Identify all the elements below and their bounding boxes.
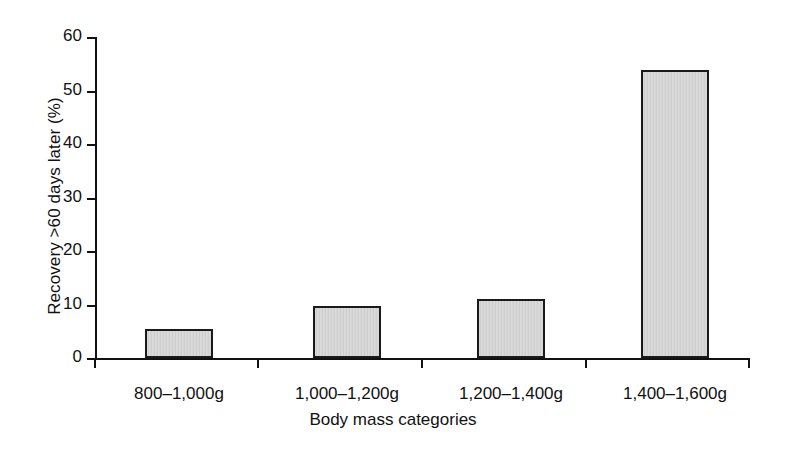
x-axis-title: Body mass categories: [0, 410, 786, 430]
x-tick-label-1: 1,000–1,200g: [295, 384, 399, 404]
y-axis-line: [95, 37, 97, 359]
y-tick-label-10: 10: [63, 294, 82, 314]
bar-chart-figure: Recovery >60 days later (%) 0 10 20 30 4…: [0, 0, 786, 460]
x-tick-label-0: 800–1,000g: [134, 384, 224, 404]
y-tick-label-30: 30: [63, 187, 82, 207]
x-tick-3: [585, 359, 587, 368]
y-axis-title: Recovery >60 days later (%): [45, 46, 65, 366]
bar-1000-1200g: [313, 306, 381, 358]
plot-area: 0 10 20 30 40 50 60: [95, 37, 750, 358]
y-tick-label-60: 60: [63, 26, 82, 46]
bar-1200-1400g: [477, 299, 545, 358]
y-tick-label-0: 0: [73, 347, 82, 367]
x-tick-label-3: 1,400–1,600g: [623, 384, 727, 404]
x-tick-4: [748, 359, 750, 368]
x-tick-0: [94, 359, 96, 368]
bar-1400-1600g: [641, 70, 709, 358]
x-tick-label-2: 1,200–1,400g: [459, 384, 563, 404]
x-tick-1: [257, 359, 259, 368]
y-tick-label-40: 40: [63, 133, 82, 153]
x-tick-2: [421, 359, 423, 368]
bar-800-1000g: [145, 329, 213, 358]
y-tick-label-20: 20: [63, 240, 82, 260]
y-tick-label-50: 50: [63, 80, 82, 100]
